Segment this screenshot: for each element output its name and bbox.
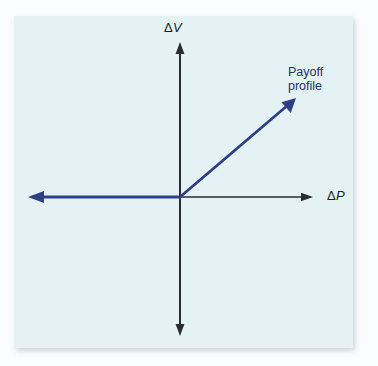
payoff-profile-annotation: Payoff profile (288, 65, 323, 93)
x-axis-label: ΔP (327, 189, 345, 202)
x-axis-label-delta: Δ (327, 188, 336, 203)
payoff-rising-segment (180, 105, 288, 197)
y-axis-label-delta: Δ (164, 20, 173, 35)
x-axis-right-arrowhead (301, 193, 313, 201)
y-axis-label: ΔV (164, 21, 182, 34)
y-axis-down-arrowhead (176, 324, 185, 336)
payoff-profile-diagram (0, 0, 378, 366)
payoff-flat-segment-group (28, 191, 181, 203)
payoff-profile-annotation-line-1: Payoff (288, 65, 323, 79)
y-axis-label-symbol: V (173, 20, 182, 35)
y-axis-up-arrowhead (176, 42, 185, 54)
x-axis-label-symbol: P (336, 188, 345, 203)
figure-root: ΔV ΔP Payoff profile (0, 0, 378, 366)
payoff-profile-annotation-line-2: profile (288, 79, 323, 93)
y-axis-group (176, 42, 185, 336)
payoff-rising-segment-group (180, 98, 296, 197)
payoff-up-arrowhead (282, 98, 297, 113)
payoff-left-arrowhead (28, 191, 44, 203)
x-axis-positive-group (180, 193, 313, 201)
